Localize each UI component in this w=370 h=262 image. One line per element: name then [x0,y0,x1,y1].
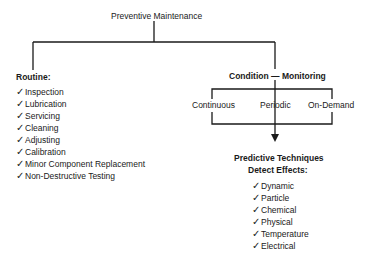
modes-top-bracket [212,89,332,99]
list-item: ✓Non-Destructive Testing [16,170,145,182]
check-icon: ✓ [16,98,24,109]
list-item: ✓Servicing [16,110,145,122]
mode-continuous: Continuous [192,100,235,110]
check-icon: ✓ [16,86,24,97]
list-item: ✓Chemical [252,204,309,216]
predictive-title: Predictive Techniques [234,153,324,163]
check-icon: ✓ [252,192,260,203]
check-icon: ✓ [16,134,24,145]
check-icon: ✓ [252,180,260,191]
mode-on-demand: On-Demand [308,100,354,110]
list-item: ✓Cleaning [16,122,145,134]
list-item: ✓Electrical [252,240,309,252]
arrow-head-icon [271,134,279,142]
routine-list: ✓Inspection ✓Lubrication ✓Servicing ✓Cle… [16,86,145,182]
list-item: ✓Calibration [16,146,145,158]
list-item: ✓Particle [252,192,309,204]
check-icon: ✓ [252,216,260,227]
mode-periodic: Periodic [260,100,291,110]
list-item: ✓Lubrication [16,98,145,110]
check-icon: ✓ [252,240,260,251]
predictive-list: ✓Dynamic ✓Particle ✓Chemical ✓Physical ✓… [252,180,309,252]
check-icon: ✓ [16,122,24,133]
routine-title: Routine: [16,72,50,82]
list-item: ✓Inspection [16,86,145,98]
check-icon: ✓ [252,204,260,215]
check-icon: ✓ [252,228,260,239]
check-icon: ✓ [16,158,24,169]
list-item: ✓Temperature [252,228,309,240]
modes-bottom-bracket [212,112,332,124]
list-item: ✓Minor Component Replacement [16,158,145,170]
predictive-subtitle: Detect Effects: [248,165,308,175]
check-icon: ✓ [16,146,24,157]
list-item: ✓Physical [252,216,309,228]
list-item: ✓Adjusting [16,134,145,146]
check-icon: ✓ [16,110,24,121]
list-item: ✓Dynamic [252,180,309,192]
condition-monitoring-title: Condition — Monitoring [229,71,326,81]
check-icon: ✓ [16,170,24,181]
root-node-label: Preventive Maintenance [111,11,202,21]
